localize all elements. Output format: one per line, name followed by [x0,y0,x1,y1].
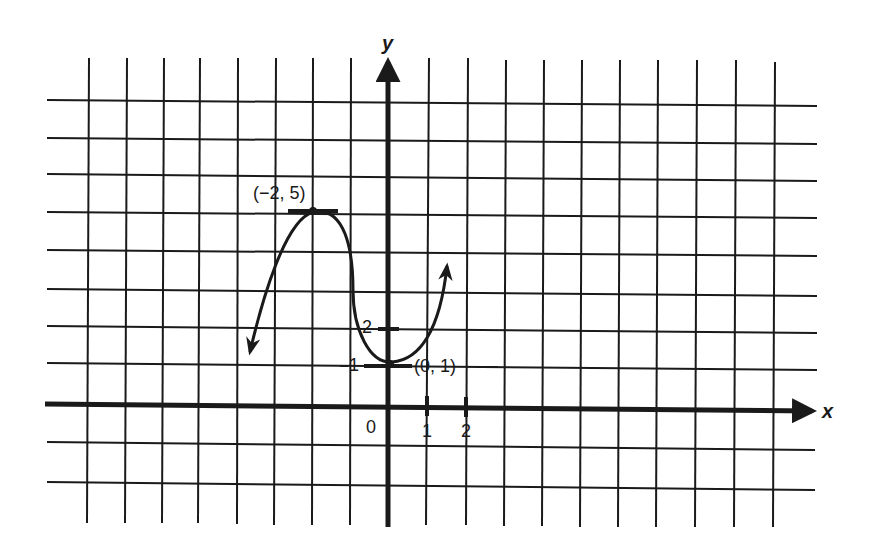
point-min [386,360,394,368]
graph-figure: y x 0 1 2 2 1 (−2, 5) (0, 1) [0,0,874,554]
y-tick-label-1: 1 [349,356,359,374]
y-axis-label: y [382,33,393,53]
point-max [309,207,317,215]
x-tick-label-2: 2 [461,422,471,440]
origin-label: 0 [366,418,376,436]
y-tick-label-2: 2 [362,318,372,336]
point-label-min: (0, 1) [414,357,456,375]
function-curve [250,211,447,362]
x-axis-label: x [822,401,833,421]
x-tick-label-1: 1 [422,422,432,440]
coordinate-plane [0,0,874,554]
point-label-max: (−2, 5) [253,184,306,202]
